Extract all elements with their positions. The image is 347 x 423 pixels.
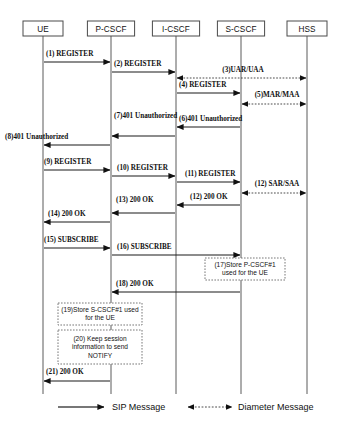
note-line-note20-1: information to send [72, 343, 128, 350]
note-line-note20-0: (20) Keep session [73, 335, 126, 343]
legend-sip-label: SIP Message [112, 402, 165, 412]
legend-group: SIP MessageDiameter Message [58, 402, 314, 412]
actor-label-pcscf: P-CSCF [95, 25, 126, 34]
actor-label-hss: HSS [298, 25, 316, 34]
message-label-12: (12) SAR/SAA [255, 180, 300, 188]
message-label-2: (2) REGISTER [114, 60, 162, 68]
actor-label-scscf: S-CSCF [225, 25, 256, 34]
legend-diameter-label: Diameter Message [238, 402, 314, 412]
message-label-16: (15) SUBSCRIBE [44, 236, 99, 244]
sequence-diagram: UEP-CSCFI-CSCFS-CSCFHSS (1) REGISTER(2) … [0, 0, 347, 423]
message-label-8: (8)401 Unauthorized [5, 133, 68, 141]
message-label-4: (4) REGISTER [179, 81, 227, 89]
actor-label-ue: UE [37, 25, 49, 34]
message-label-13: (12) 200 OK [190, 193, 228, 201]
message-label-19: (21) 200 OK [46, 368, 84, 376]
message-label-18: (18) 200 OK [116, 280, 154, 288]
message-label-3: (3)UAR/UAA [222, 66, 264, 74]
actor-label-icscf: I-CSCF [162, 25, 190, 34]
message-label-9: (9) REGISTER [44, 158, 92, 166]
message-label-15: (14) 200 OK [48, 210, 86, 218]
message-label-11: (11) REGISTER [185, 170, 236, 178]
actors-group: UEP-CSCFI-CSCFS-CSCFHSS [23, 21, 327, 36]
note-line-note17-1: used for the UE [222, 269, 268, 276]
message-label-6: (6)401 Unauthorized [179, 115, 242, 123]
note-line-note20-2: NOTIFY [88, 352, 113, 359]
notes-group: (17)Store P-CSCF#1used for the UE(19)Sto… [58, 258, 285, 364]
message-label-17: (16) SUBSCRIBE [117, 243, 172, 251]
message-label-5: (5)MAR/MAA [255, 91, 301, 99]
message-label-14: (13) 200 OK [116, 196, 154, 204]
message-label-1: (1) REGISTER [46, 50, 94, 58]
note-line-note19-1: for the UE [85, 314, 115, 321]
message-label-10: (10) REGISTER [117, 164, 169, 172]
message-label-7: (7)401 Unauthorized [114, 112, 177, 120]
note-line-note17-0: (17)Store P-CSCF#1 [214, 261, 276, 269]
note-line-note19-0: (19)Store S-CSCF#1 used [61, 306, 139, 314]
